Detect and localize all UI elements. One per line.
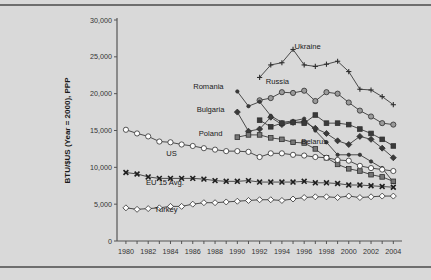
data-point-marker [224,149,229,154]
data-point-marker [302,88,307,93]
data-point-marker [391,122,396,127]
series-label-russia: Russia [266,77,290,86]
data-point-marker [246,149,251,154]
figure-page: 05,00010,00015,00020,00025,00030,0001980… [0,0,431,280]
chart-canvas: 05,00010,00015,00020,00025,00030,0001980… [0,6,431,266]
series-label-eu-15-avg: EU 15 Avg. [146,178,184,187]
data-point-marker [357,133,363,139]
data-point-marker [380,137,385,142]
data-point-marker [357,195,363,201]
data-point-marker [358,169,363,174]
x-axis-tick-label: 1990 [229,247,245,256]
data-point-marker [357,108,362,113]
data-point-marker [279,90,284,95]
data-point-marker [302,121,307,126]
data-point-marker [302,153,307,158]
data-point-marker [146,134,151,139]
data-point-marker [324,62,329,67]
bottom-divider-rule [0,266,431,268]
x-axis-tick-label: 2002 [363,247,379,256]
y-axis-title-group: BTU/$US (Year = 2000), PPP [63,77,72,184]
x-axis-tick-label: 1984 [162,247,178,256]
series-group [123,47,396,212]
data-point-marker [279,151,284,156]
series-label-turkey: Turkey [155,205,178,214]
data-point-marker [335,157,340,162]
data-point-marker [280,137,285,142]
data-point-marker [335,138,341,144]
data-point-marker [235,135,240,140]
series-label-poland: Poland [199,129,223,138]
data-point-marker [123,205,129,211]
data-point-marker [234,109,240,115]
data-point-marker [190,201,196,207]
y-axis-tick-label: 15,000 [90,126,112,135]
data-point-marker [380,175,385,180]
data-point-marker [369,172,374,177]
y-axis-tick-label: 20,000 [90,89,112,98]
data-point-marker [145,206,151,212]
data-point-marker [324,155,329,160]
data-point-marker [157,139,162,144]
data-point-marker [313,113,318,118]
data-point-marker [246,133,251,138]
data-point-marker [358,127,363,132]
data-point-marker [379,193,385,199]
series-polyline [260,91,394,125]
data-point-marker [313,147,318,152]
data-point-marker [391,168,396,173]
data-point-marker [324,121,329,126]
data-point-marker [301,195,307,201]
data-point-marker [335,121,340,126]
data-point-marker [201,146,206,151]
data-point-marker [179,203,185,209]
data-point-marker [258,100,261,103]
data-point-marker [168,140,173,145]
data-point-marker [357,87,362,92]
x-axis-tick-label: 1996 [296,247,312,256]
data-point-marker [346,100,351,105]
data-point-marker [347,153,350,156]
series-labels-group: UkraineRussiaRomaniaBulgariaPolandBelaru… [146,42,327,214]
data-point-marker [358,153,361,156]
data-point-marker [290,90,295,95]
y-axis-title: BTU/$US (Year = 2000), PPP [63,77,72,184]
data-point-marker [336,153,339,156]
data-point-marker [268,151,273,156]
y-axis-tick-label: 5,000 [94,200,112,209]
data-point-marker [134,131,139,136]
data-point-marker [223,199,229,205]
data-point-marker [247,104,250,107]
data-point-marker [313,98,318,103]
series-label-romania: Romania [193,82,224,91]
data-point-marker [368,87,373,92]
data-point-marker [190,143,195,148]
data-point-marker [235,149,240,154]
x-axis-tick-label: 1998 [318,247,334,256]
data-point-marker [312,125,318,131]
data-point-marker [369,131,374,136]
x-axis-tick-label: 2000 [341,247,357,256]
x-axis-tick-label: 1994 [274,247,290,256]
data-point-marker [346,158,351,163]
data-point-marker [268,136,273,141]
data-point-marker [324,90,329,95]
data-point-marker [391,179,396,184]
y-axis-tick-label: 25,000 [90,52,112,61]
data-point-marker [313,154,318,159]
data-point-marker [134,206,140,212]
data-point-marker [357,163,362,168]
data-point-marker [257,133,262,138]
data-point-marker [268,125,273,130]
data-point-marker [234,198,240,204]
data-point-marker [280,121,285,126]
data-point-marker [290,152,295,157]
data-point-marker [391,144,396,149]
y-axis-tick-label: 10,000 [90,163,112,172]
y-axis-tick-label: 0 [108,237,112,246]
data-point-marker [346,193,352,199]
data-point-marker [368,165,373,170]
line-chart-figure: 05,00010,00015,00020,00025,00030,0001980… [0,6,431,266]
data-point-marker [346,167,351,172]
data-point-marker [335,91,340,96]
